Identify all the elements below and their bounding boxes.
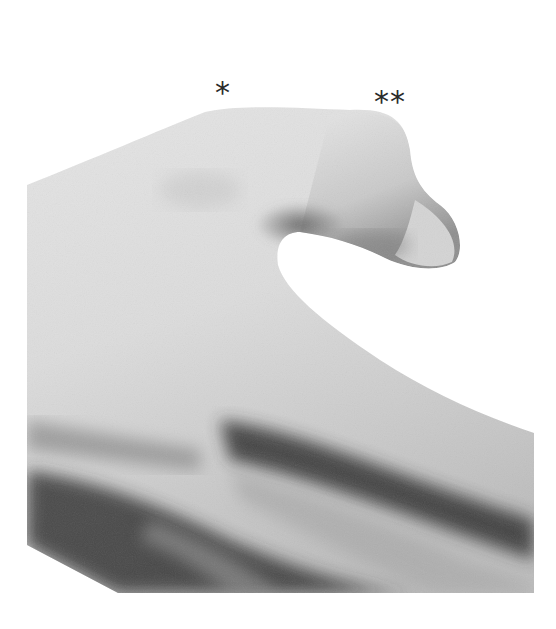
single-asterisk-marker: *: [215, 78, 231, 108]
double-asterisk-marker: **: [374, 87, 406, 117]
hand-photo: [0, 0, 556, 629]
hand-photograph-figure: * **: [0, 0, 556, 629]
